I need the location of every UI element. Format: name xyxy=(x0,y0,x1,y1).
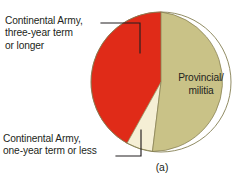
pie-label-continental-one-year: Continental Army, one-year term or less xyxy=(3,133,115,158)
pie-label-provincial-militia: Provincial/ militia xyxy=(168,72,234,97)
pie-label-continental-three-year: Continental Army, three-year term or lon… xyxy=(5,15,101,52)
figure-caption: (a) xyxy=(140,162,184,173)
pie-chart-figure: Continental Army, three-year term or lon… xyxy=(0,0,240,185)
